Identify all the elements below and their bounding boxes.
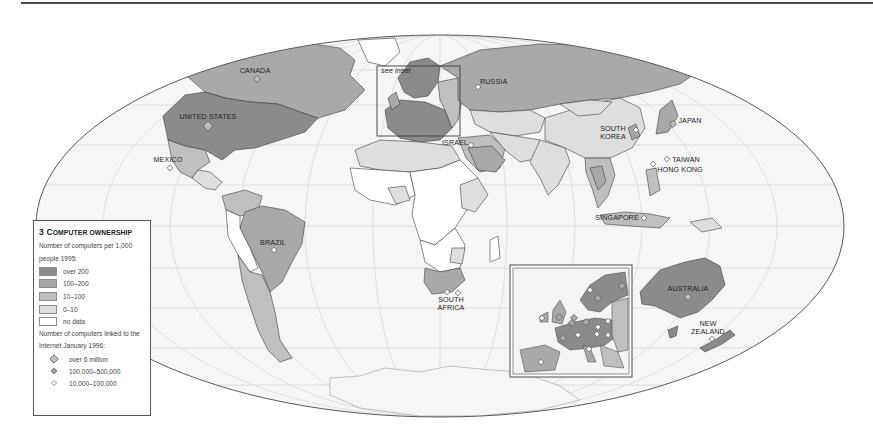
legend-subtitle-line: Internet January 1996: xyxy=(39,340,146,353)
legend-number: 3 xyxy=(39,227,44,237)
label-hong-kong: HONG KONG xyxy=(657,165,703,174)
swatch-10-100 xyxy=(39,292,57,301)
label-new-zealand-2: ZEALAND xyxy=(691,327,725,336)
legend-swatch-row: 0–10 xyxy=(39,303,146,316)
legend-subtitle-line: people 1995: xyxy=(39,253,146,266)
marker-label: 100,000–500,000 xyxy=(69,368,120,375)
label-south-africa-2: AFRICA xyxy=(438,303,465,312)
legend-title-rest: OMPUTER OWNERSHIP xyxy=(53,229,133,236)
label-japan: JAPAN xyxy=(678,116,701,125)
swatch-label: 10–100 xyxy=(63,293,85,300)
swatch-over-200 xyxy=(39,267,57,276)
label-taiwan: TAIWAN xyxy=(672,155,700,164)
label-mexico: MEXICO xyxy=(154,155,183,164)
map-legend: 3 COMPUTER OWNERSHIP Number of computers… xyxy=(33,220,151,416)
legend-subtitle-line: Number of computers linked to the xyxy=(39,328,146,341)
label-singapore: SINGAPORE xyxy=(595,213,639,222)
label-israel: ISRAEL xyxy=(442,138,468,147)
inset-label: see inset xyxy=(381,66,412,75)
madagascar xyxy=(490,236,500,262)
legend-subtitle-ownership: Number of computers per 1,000 people 199… xyxy=(39,240,146,265)
swatch-label: 100–200 xyxy=(63,280,89,287)
label-canada: CANADA xyxy=(240,66,271,75)
label-south-korea-2: KOREA xyxy=(600,132,626,141)
marker-label: over 6 million xyxy=(69,356,108,363)
label-brazil: BRAZIL xyxy=(260,238,286,247)
legend-subtitle-internet: Number of computers linked to the Intern… xyxy=(39,328,146,353)
swatch-100-200 xyxy=(39,279,57,288)
swatch-label: over 200 xyxy=(63,268,89,275)
diamond-medium-icon xyxy=(47,366,61,376)
swatch-label: no data xyxy=(63,318,85,325)
legend-title: 3 COMPUTER OWNERSHIP xyxy=(39,227,146,237)
swatch-no-data xyxy=(39,317,57,326)
legend-marker-row: 10,000–100,000 xyxy=(39,377,146,389)
diamond-small-icon xyxy=(47,378,61,388)
legend-swatch-row: 10–100 xyxy=(39,290,146,303)
legend-markers: over 6 million 100,000–500,000 10,000–10… xyxy=(39,353,146,390)
swatch-label: 0–10 xyxy=(63,306,78,313)
legend-swatch-row: 100–200 xyxy=(39,278,146,291)
legend-subtitle-line: Number of computers per 1,000 xyxy=(39,240,146,253)
marker-label: 10,000–100,000 xyxy=(69,380,117,387)
legend-swatches: over 200 100–200 10–100 0–10 no data xyxy=(39,265,146,328)
label-united-states: UNITED STATES xyxy=(180,112,237,121)
legend-swatch-row: over 200 xyxy=(39,265,146,278)
legend-marker-row: over 6 million xyxy=(39,353,146,365)
inset-iberia xyxy=(520,345,560,372)
swatch-0-10 xyxy=(39,305,57,314)
europe-inset xyxy=(510,265,632,377)
label-russia: RUSSIA xyxy=(480,77,507,86)
label-australia: AUSTRALIA xyxy=(668,284,709,293)
legend-marker-row: 100,000–500,000 xyxy=(39,365,146,377)
zimbabwe xyxy=(450,248,465,264)
legend-swatch-row: no data xyxy=(39,315,146,328)
diamond-large-icon xyxy=(47,354,61,364)
